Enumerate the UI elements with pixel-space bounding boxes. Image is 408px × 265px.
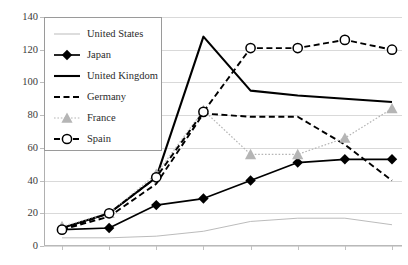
- legend-item-united-kingdom[interactable]: United Kingdom: [45, 65, 161, 86]
- y-axis-tick-label: 120: [4, 45, 38, 55]
- data-point-marker: [387, 154, 397, 164]
- line-chart: 140120100806040200 United StatesJapanUni…: [0, 0, 408, 265]
- x-axis-tick-mark: [109, 246, 110, 250]
- legend-item-label: Germany: [87, 91, 126, 102]
- legend-key-icon: [52, 111, 82, 125]
- data-point-marker: [292, 149, 303, 159]
- x-axis-tick-mark: [203, 246, 204, 250]
- x-axis-tick-mark: [251, 246, 252, 250]
- y-axis-tick-mark: [40, 213, 44, 214]
- legend-key-icon: [52, 27, 82, 41]
- legend-item-label: Japan: [87, 49, 111, 60]
- legend-key-icon: [52, 132, 82, 146]
- data-point-marker: [151, 200, 161, 210]
- data-point-marker: [104, 223, 114, 233]
- data-point-marker: [245, 175, 255, 185]
- x-axis-tick-mark: [392, 246, 393, 250]
- y-axis-tick-label: 140: [4, 12, 38, 22]
- legend-item-label: Spain: [87, 133, 111, 144]
- legend-key-icon: [52, 48, 82, 62]
- legend-item-germany[interactable]: Germany: [45, 86, 161, 107]
- legend-item-france[interactable]: France: [45, 107, 161, 128]
- y-axis-labels: 140120100806040200: [0, 0, 38, 265]
- series-japan: [57, 154, 397, 235]
- data-point-marker: [387, 45, 396, 54]
- y-axis-tick-label: 60: [4, 143, 38, 153]
- legend-item-label: United Kingdom: [87, 70, 158, 81]
- legend-item-united-states[interactable]: United States: [45, 23, 161, 44]
- legend-key-icon: [52, 90, 82, 104]
- data-point-marker: [198, 193, 208, 203]
- data-point-marker: [340, 35, 349, 44]
- x-axis-tick-mark: [156, 246, 157, 250]
- legend-item-japan[interactable]: Japan: [45, 44, 161, 65]
- y-axis-tick-mark: [40, 246, 44, 247]
- legend-key-icon: [52, 69, 82, 83]
- data-point-marker: [246, 43, 255, 52]
- legend-item-spain[interactable]: Spain: [45, 128, 161, 149]
- y-axis-tick-label: 100: [4, 77, 38, 87]
- legend-item-label: United States: [87, 28, 143, 39]
- y-axis-tick-label: 0: [4, 241, 38, 251]
- data-point-marker: [293, 43, 302, 52]
- data-point-marker: [386, 103, 397, 113]
- y-axis-tick-mark: [40, 181, 44, 182]
- data-point-marker: [199, 107, 208, 116]
- data-point-marker: [339, 132, 350, 142]
- data-point-marker: [340, 154, 350, 164]
- x-axis-tick-mark: [298, 246, 299, 250]
- x-axis-tick-mark: [62, 246, 63, 250]
- legend-item-label: France: [87, 112, 116, 123]
- data-point-marker: [152, 173, 161, 182]
- gridline: [44, 246, 402, 247]
- y-axis-tick-label: 40: [4, 176, 38, 186]
- y-axis-tick-label: 80: [4, 110, 38, 120]
- x-axis-tick-mark: [345, 246, 346, 250]
- chart-legend: United StatesJapanUnited KingdomGermanyF…: [44, 17, 162, 151]
- data-point-marker: [57, 225, 66, 234]
- y-axis-tick-label: 20: [4, 208, 38, 218]
- data-point-marker: [105, 209, 114, 218]
